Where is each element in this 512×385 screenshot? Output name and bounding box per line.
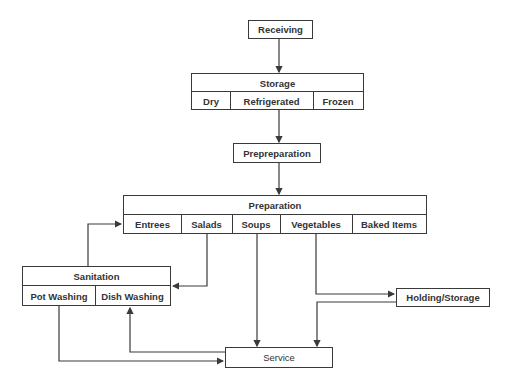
- holding-storage-label: Holding/Storage: [397, 289, 489, 306]
- service-node: Service: [225, 347, 333, 368]
- holding-storage-node: Holding/Storage: [396, 288, 490, 307]
- preparation-node: Preparation Entrees Salads Soups Vegetab…: [123, 195, 427, 234]
- prepreparation-label: Prepreparation: [234, 144, 320, 162]
- receiving-label: Receiving: [249, 21, 312, 38]
- sanitation-label: Sanitation: [23, 267, 170, 286]
- sanitation-node: Sanitation Pot Washing Dish Washing: [22, 266, 171, 306]
- storage-frozen: Frozen: [313, 92, 363, 110]
- storage-label: Storage: [192, 74, 363, 92]
- preparation-vegetables: Vegetables: [280, 215, 352, 234]
- preparation-label: Preparation: [124, 196, 426, 215]
- preparation-baked-items: Baked Items: [352, 215, 426, 234]
- preparation-entrees: Entrees: [124, 215, 181, 234]
- preparation-salads: Salads: [181, 215, 232, 234]
- storage-refrigerated: Refrigerated: [230, 92, 313, 110]
- prepreparation-node: Prepreparation: [233, 143, 321, 163]
- storage-node: Storage Dry Refrigerated Frozen: [191, 73, 364, 110]
- sanitation-pot-washing: Pot Washing: [23, 286, 95, 306]
- preparation-soups: Soups: [232, 215, 280, 234]
- receiving-node: Receiving: [248, 20, 313, 39]
- sanitation-dish-washing: Dish Washing: [95, 286, 170, 306]
- storage-dry: Dry: [192, 92, 230, 110]
- connector-lines: [0, 0, 512, 385]
- service-label: Service: [226, 348, 332, 367]
